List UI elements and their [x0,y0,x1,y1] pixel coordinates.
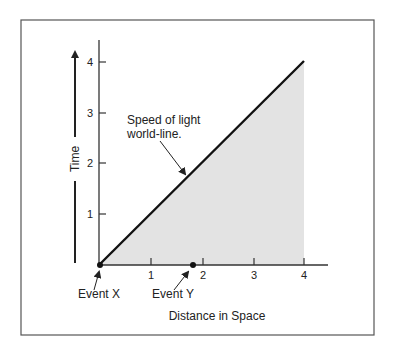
event-x-label: Event X [78,287,120,301]
y-tick-2: 2 [87,157,93,169]
x-tick-3: 3 [251,269,257,281]
y-tick-3: 3 [87,107,93,119]
event-x-point [97,262,103,268]
event-y-point [190,262,196,268]
y-ticks [99,62,106,214]
y-tick-4: 4 [87,56,93,68]
annotation-arrow [160,141,185,174]
x-tick-2: 2 [200,269,206,281]
chart: 4 3 2 1 1 2 3 4 Time Speed of light worl… [0,0,394,354]
x-tick-1: 1 [148,269,154,281]
y-axis-label: Time [68,146,82,173]
event-y-label: Event Y [152,287,194,301]
x-axis-label: Distance in Space [169,309,266,323]
annotation-line2: world-line. [126,127,182,141]
annotation-line1: Speed of light [127,113,201,127]
x-tick-4: 4 [301,269,307,281]
y-tick-1: 1 [87,208,93,220]
